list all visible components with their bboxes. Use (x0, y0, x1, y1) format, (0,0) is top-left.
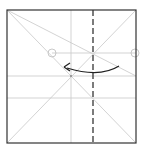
fold-arrow-icon (64, 63, 119, 73)
origami-diagram (0, 0, 142, 145)
corner-to-edge-crease (7, 10, 136, 76)
center-point (70, 75, 72, 77)
